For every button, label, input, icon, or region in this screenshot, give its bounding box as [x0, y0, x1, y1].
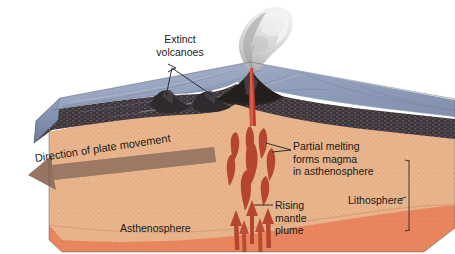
label-partial-melting: Partial melting forms magma in asthenosp…: [293, 140, 374, 178]
cross-section-svg: [0, 0, 455, 254]
label-lithosphere: Lithosphere: [348, 194, 403, 207]
diagram-canvas: Extinct volcanoes Partial melting forms …: [0, 0, 455, 254]
label-extinct-volcanoes: Extinct volcanoes: [137, 33, 223, 58]
label-rising-mantle-plume: Rising mantle plume: [275, 199, 307, 237]
volcanic-plume: [239, 7, 293, 70]
label-asthenosphere: Asthenosphere: [120, 222, 191, 235]
